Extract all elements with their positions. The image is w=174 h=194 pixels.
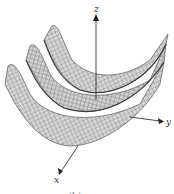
surface-plot: z y x (b) ... — [0, 0, 174, 194]
figure-caption: (b) ... — [68, 191, 92, 194]
y-axis-arrow-icon — [158, 118, 164, 124]
z-axis-arrow-icon — [93, 14, 99, 21]
z-axis-label: z — [93, 4, 99, 14]
y-axis — [130, 117, 160, 121]
x-axis — [62, 146, 78, 170]
x-axis-label: x — [54, 175, 59, 185]
y-axis-label: y — [165, 117, 172, 127]
surface-back-ridge — [44, 25, 168, 92]
